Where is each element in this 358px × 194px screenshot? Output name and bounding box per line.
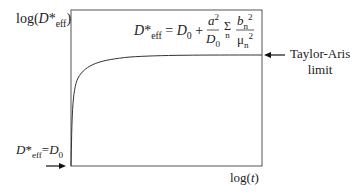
taylor-aris-label: Taylor-Aris limit [290,46,350,78]
formula-frac2-den: μn2 [237,31,253,50]
formula-frac1-num: a2 [208,12,219,29]
formula-frac2-num: bn2 [237,12,253,31]
y-axis-label: log(D*eff) [16,11,71,29]
start-label: D*eff=D0 [16,142,63,160]
diffusion-curve [71,55,262,166]
formula-lhs: D*eff = D0 + [134,23,203,41]
formula-frac1-den: D0 [206,31,220,49]
formula-sigma: Σ n [224,22,231,40]
x-axis-label: log(t) [230,170,259,186]
